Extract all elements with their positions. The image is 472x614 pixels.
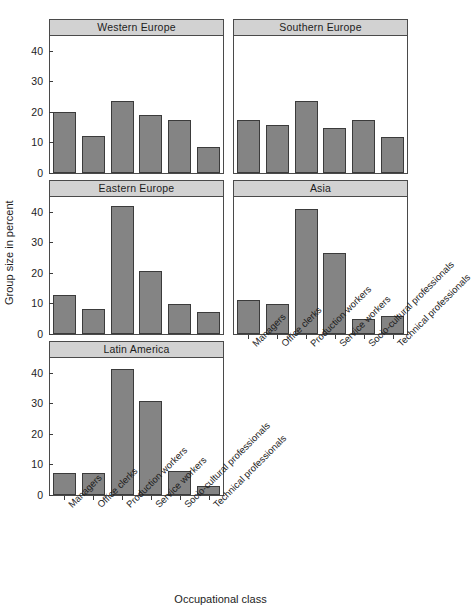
panel-title: Eastern Europe: [49, 180, 224, 197]
x-tick-mark: [209, 496, 210, 500]
panel-eastern-europe: Eastern Europe: [49, 180, 224, 335]
y-tick-label: 20: [31, 428, 43, 441]
panel-western-europe: Western Europe: [49, 19, 224, 174]
y-tick-label: 20: [31, 267, 43, 280]
y-tick-mark: [49, 242, 53, 243]
y-tick-mark: [49, 495, 53, 496]
y-axis: 010203040: [0, 358, 49, 495]
bar: [197, 147, 220, 173]
y-tick-mark: [49, 373, 53, 374]
x-tick-mark: [277, 335, 278, 339]
y-tick-label: 0: [37, 167, 43, 180]
x-tick-mark: [180, 496, 181, 500]
y-tick-label: 10: [31, 458, 43, 471]
bar: [53, 295, 76, 334]
x-tick-mark: [248, 335, 249, 339]
x-tick-mark: [364, 335, 365, 339]
y-tick-label: 30: [31, 397, 43, 410]
x-tick-mark: [64, 496, 65, 500]
bar: [381, 137, 404, 173]
y-tick-label: 20: [31, 106, 43, 119]
bar: [111, 206, 134, 334]
panel-title: Latin America: [49, 341, 224, 358]
x-axis-title: Occupational class: [0, 593, 441, 605]
y-axis: 010203040: [0, 36, 49, 173]
y-tick-mark: [49, 51, 53, 52]
y-tick-mark: [49, 403, 53, 404]
panel-plot-box: [49, 35, 224, 174]
bar: [111, 101, 134, 173]
plot-area: [50, 36, 223, 173]
y-tick-mark: [49, 81, 53, 82]
bar: [197, 312, 220, 334]
plot-area: [234, 36, 407, 173]
bar: [82, 136, 105, 173]
bar: [139, 271, 162, 334]
bar: [168, 304, 191, 334]
y-tick-mark: [49, 273, 53, 274]
bar: [53, 112, 76, 173]
y-tick-mark: [49, 334, 53, 335]
panel-southern-europe: Southern Europe: [233, 19, 408, 174]
y-tick-label: 40: [31, 367, 43, 380]
panel-plot-box: [49, 196, 224, 335]
x-tick-mark: [335, 335, 336, 339]
bar: [295, 101, 318, 173]
y-tick-label: 40: [31, 45, 43, 58]
panel-title: Asia: [233, 180, 408, 197]
y-tick-mark: [49, 173, 53, 174]
y-tick-label: 10: [31, 297, 43, 310]
panel-title: Southern Europe: [233, 19, 408, 36]
bar: [237, 300, 260, 334]
x-tick-mark: [93, 496, 94, 500]
plot-area: [50, 197, 223, 334]
bar: [266, 125, 289, 173]
y-tick-label: 30: [31, 236, 43, 249]
bar: [82, 309, 105, 334]
x-tick-mark: [306, 335, 307, 339]
y-axis: 010203040: [0, 197, 49, 334]
bar: [352, 120, 375, 173]
y-tick-mark: [49, 303, 53, 304]
y-tick-label: 40: [31, 206, 43, 219]
y-tick-mark: [49, 212, 53, 213]
x-tick-mark: [151, 496, 152, 500]
y-tick-mark: [49, 464, 53, 465]
bar: [237, 120, 260, 173]
y-tick-mark: [49, 142, 53, 143]
y-tick-mark: [49, 112, 53, 113]
y-tick-label: 0: [37, 489, 43, 502]
bar: [323, 128, 346, 173]
y-tick-mark: [49, 434, 53, 435]
panel-title: Western Europe: [49, 19, 224, 36]
y-tick-label: 10: [31, 136, 43, 149]
y-tick-label: 30: [31, 75, 43, 88]
y-tick-label: 0: [37, 328, 43, 341]
panel-plot-box: [233, 35, 408, 174]
bar: [53, 473, 76, 495]
bar: [168, 120, 191, 173]
bar: [139, 115, 162, 173]
x-tick-mark: [393, 335, 394, 339]
x-tick-mark: [122, 496, 123, 500]
